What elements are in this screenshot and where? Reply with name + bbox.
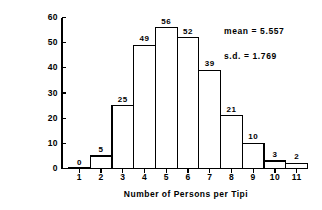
bar-value-label: 52 (176, 27, 200, 36)
x-tick-label: 1 (69, 173, 89, 182)
bar-value-label: 3 (263, 150, 287, 159)
bar (155, 28, 177, 169)
x-tick-label: 3 (113, 173, 133, 182)
x-axis-title: Number of Persons per Tipi (60, 189, 312, 199)
x-tick-label: 2 (91, 173, 111, 182)
x-tick-label: 9 (243, 173, 263, 182)
histogram-chart: Number of Tipis Number of Persons per Ti… (0, 0, 322, 210)
x-tick-label: 4 (135, 173, 155, 182)
bar (134, 45, 156, 168)
y-tick-label: 0 (34, 164, 58, 173)
bar (264, 161, 286, 169)
y-tick-label: 20 (34, 114, 58, 123)
x-tick-label: 6 (178, 173, 198, 182)
bar (90, 156, 112, 169)
y-tick-label: 40 (34, 63, 58, 72)
sd-annotation: s.d. = 1.769 (224, 51, 277, 61)
x-tick-label: 11 (287, 173, 307, 182)
y-tick-label: 30 (34, 89, 58, 98)
mean-annotation: mean = 5.557 (224, 26, 284, 36)
bar-value-label: 49 (133, 34, 157, 43)
bar-value-label: 0 (67, 158, 91, 167)
bar-value-label: 56 (154, 17, 178, 26)
bar-value-label: 5 (89, 145, 113, 154)
x-tick-label: 7 (200, 173, 220, 182)
x-tick-label: 5 (156, 173, 176, 182)
bar-value-label: 25 (111, 95, 135, 104)
bar-value-label: 39 (198, 59, 222, 68)
y-tick-label: 50 (34, 38, 58, 47)
bar (177, 38, 199, 169)
y-tick-label: 10 (34, 139, 58, 148)
bar-value-label: 2 (285, 152, 309, 161)
y-tick-label: 60 (34, 13, 58, 22)
bar (221, 116, 243, 169)
bar (199, 70, 221, 168)
bar-value-label: 21 (219, 105, 243, 114)
x-tick-label: 8 (221, 173, 241, 182)
bar (242, 143, 264, 168)
bar (112, 106, 134, 169)
bar-value-label: 10 (241, 132, 265, 141)
x-tick-label: 10 (265, 173, 285, 182)
bar (286, 163, 308, 168)
bar (69, 168, 91, 169)
